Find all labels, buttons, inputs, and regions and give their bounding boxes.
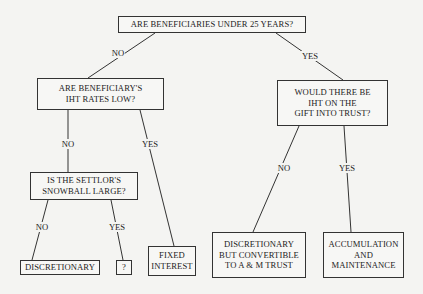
node-iht-rates-low: ARE BENEFICIARY'S IHT RATES LOW? — [37, 78, 164, 110]
edge-label-root-no: NO — [111, 48, 125, 58]
edge-label-gift-yes: YES — [338, 163, 356, 173]
node-root-under-25: ARE BENEFICIARIES UNDER 25 YEARS? — [118, 16, 306, 33]
edge-iht-low-yes — [140, 110, 174, 246]
node-discretionary-convertible: DISCRETIONARY BUT CONVERTIBLE TO A & M T… — [212, 232, 306, 278]
node-fixed-interest: FIXED INTEREST — [148, 246, 196, 276]
node-iht-on-gift: WOULD THERE BE IHT ON THE GIFT INTO TRUS… — [277, 80, 388, 126]
edge-label-iht-low-no: NO — [61, 139, 75, 149]
node-discretionary: DISCRETIONARY — [20, 260, 100, 275]
node-unknown: ? — [116, 260, 132, 275]
edge-label-snowball-yes: YES — [108, 222, 126, 232]
node-accumulation-maintenance: ACCUMULATION AND MAINTENANCE — [323, 232, 404, 278]
edge-label-gift-no: NO — [277, 163, 291, 173]
node-snowball-large: IS THE SETTLOR'S SNOWBALL LARGE? — [30, 172, 138, 200]
edge-label-iht-low-yes: YES — [141, 139, 159, 149]
edge-gift-yes — [344, 126, 351, 232]
edge-label-root-yes: YES — [301, 51, 319, 61]
edge-label-snowball-no: NO — [35, 222, 49, 232]
edge-gift-no — [253, 126, 299, 232]
